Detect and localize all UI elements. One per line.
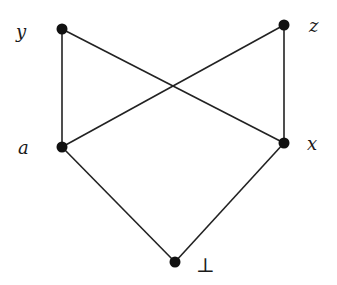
node-a (57, 142, 68, 153)
label-y: y (15, 21, 27, 42)
nodes-group (57, 20, 290, 268)
label-x: x (307, 133, 317, 154)
node-x (279, 138, 290, 149)
node-z (279, 20, 290, 31)
edge-z-a (62, 25, 284, 147)
label-z: z (308, 15, 319, 36)
diagram-canvas: yzax⊥ (0, 0, 337, 285)
edges-group (62, 25, 284, 262)
edge-a-bottom (62, 147, 175, 262)
label-bottom: ⊥ (196, 253, 215, 277)
node-y (57, 24, 68, 35)
edge-x-bottom (175, 143, 284, 262)
label-a: a (18, 137, 29, 158)
hasse-diagram: yzax⊥ (0, 0, 337, 285)
node-bottom (170, 257, 181, 268)
